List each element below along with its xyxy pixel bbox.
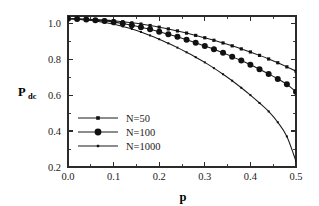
x-tick-label: 0.3: [198, 171, 211, 182]
x-tick-label: 0.0: [61, 171, 74, 182]
y-tick-label: 0.8: [48, 54, 61, 65]
data-point: [275, 76, 281, 82]
data-point: [249, 50, 252, 53]
x-tick-label: 0.1: [107, 171, 120, 182]
y-tick-label: 0.4: [48, 126, 62, 137]
data-point: [122, 25, 124, 27]
data-point: [212, 39, 215, 42]
y-axis-title: P: [18, 85, 26, 99]
data-point: [85, 19, 87, 21]
data-point: [129, 22, 135, 28]
data-point: [176, 29, 179, 32]
x-axis-title: p: [180, 190, 187, 204]
data-point: [76, 18, 78, 20]
data-point: [204, 61, 206, 63]
data-point: [193, 40, 199, 46]
data-point: [247, 62, 253, 68]
x-tick-label: 0.4: [244, 171, 258, 182]
x-tick-label: 0.2: [153, 171, 166, 182]
data-point: [94, 20, 96, 22]
data-point: [238, 58, 244, 64]
y-axis-title-subscript: dc: [28, 91, 37, 101]
data-point: [286, 135, 288, 137]
data-point: [213, 67, 215, 69]
data-point: [285, 65, 288, 68]
data-point: [259, 102, 261, 104]
legend-label: N=100: [126, 127, 155, 138]
data-point: [184, 37, 190, 43]
data-point: [240, 47, 243, 50]
data-point: [194, 34, 197, 37]
data-point: [221, 41, 224, 44]
data-point: [186, 51, 188, 53]
data-point: [211, 46, 217, 52]
data-point: [185, 31, 188, 34]
data-point: [222, 73, 224, 75]
data-point: [220, 50, 226, 56]
chart-figure: 0.00.10.20.30.40.5 0.20.40.60.81.0 N=50N…: [0, 0, 319, 206]
data-point: [229, 54, 235, 60]
legend-marker: [95, 129, 102, 136]
data-point: [113, 23, 115, 25]
data-point: [158, 26, 161, 29]
data-point: [195, 56, 197, 58]
data-point: [176, 47, 178, 49]
data-point: [167, 27, 170, 30]
data-point: [140, 31, 142, 33]
y-tick-label: 0.6: [48, 90, 61, 101]
data-point: [103, 21, 105, 23]
data-point: [149, 34, 151, 36]
data-point: [138, 24, 144, 30]
data-point: [131, 28, 133, 30]
line-chart: 0.00.10.20.30.40.5 0.20.40.60.81.0 N=50N…: [0, 0, 319, 206]
data-point: [277, 121, 279, 123]
data-point: [174, 34, 180, 40]
data-point: [147, 26, 153, 32]
data-point: [257, 66, 263, 72]
data-point: [203, 36, 206, 39]
legend-label: N=50: [126, 113, 150, 124]
legend-label: N=1000: [126, 141, 161, 152]
data-point: [276, 61, 279, 64]
data-point: [258, 54, 261, 57]
data-point: [268, 110, 270, 112]
data-point: [266, 71, 272, 77]
legend-marker: [97, 145, 99, 147]
data-point: [267, 57, 270, 60]
data-point: [158, 38, 160, 40]
data-point: [165, 31, 171, 37]
data-point: [202, 43, 208, 49]
data-point: [240, 87, 242, 89]
data-point: [249, 94, 251, 96]
y-tick-label: 1.0: [48, 18, 61, 29]
data-point: [231, 44, 234, 47]
legend-marker: [96, 116, 100, 120]
data-point: [156, 29, 162, 35]
x-tick-label: 0.5: [289, 171, 302, 182]
y-tick-label: 0.2: [48, 162, 61, 173]
data-point: [167, 42, 169, 44]
data-point: [284, 81, 290, 87]
data-point: [231, 80, 233, 82]
